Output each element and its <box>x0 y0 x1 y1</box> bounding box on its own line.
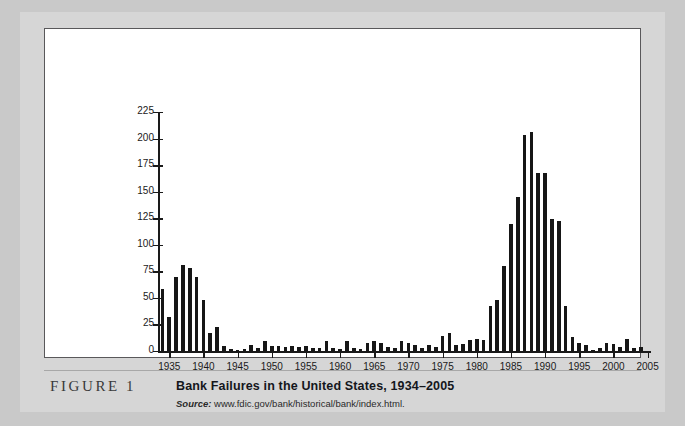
chart-axes: 0255075100125150175200225 19351940194519… <box>131 89 651 374</box>
bar <box>311 348 315 351</box>
bar <box>530 132 534 351</box>
bar <box>208 333 212 351</box>
bar <box>277 346 281 351</box>
figure-card: 0255075100125150175200225 19351940194519… <box>20 12 665 412</box>
bar <box>359 349 363 351</box>
x-axis-tick-mark <box>477 352 478 358</box>
bar <box>270 346 274 351</box>
bar <box>441 336 445 351</box>
bar <box>584 345 588 351</box>
x-axis-tick-mark <box>408 352 409 358</box>
bar <box>161 289 165 351</box>
x-axis-tick-mark <box>648 352 649 358</box>
y-axis-tick: 0 <box>131 351 168 352</box>
bar <box>557 221 561 351</box>
bar <box>516 197 520 351</box>
bar <box>379 343 383 351</box>
bar <box>571 337 575 351</box>
bar <box>605 343 609 351</box>
x-axis-tick-mark <box>374 352 375 358</box>
x-axis-tick-mark <box>272 352 273 358</box>
bar <box>434 347 438 351</box>
bar <box>509 224 513 351</box>
y-axis-tick-label: 100 <box>124 238 154 249</box>
bar <box>427 345 431 351</box>
caption-divider <box>44 370 641 371</box>
bar <box>243 349 247 351</box>
bar <box>413 345 417 351</box>
bar <box>591 350 595 351</box>
bar <box>249 345 253 351</box>
bar <box>386 347 390 351</box>
bar <box>352 348 356 351</box>
x-axis-tick-mark <box>443 352 444 358</box>
x-axis-tick-mark <box>613 352 614 358</box>
y-axis-tick-mark <box>153 351 163 352</box>
bar <box>345 341 349 351</box>
bar <box>454 345 458 351</box>
bar <box>284 347 288 351</box>
bar <box>489 306 493 351</box>
bar <box>263 341 267 351</box>
bar <box>495 300 499 351</box>
bar <box>188 268 192 351</box>
bar <box>550 219 554 351</box>
y-axis-tick-label: 150 <box>124 185 154 196</box>
bar <box>632 348 636 351</box>
figure-number: FIGURE 1 <box>50 378 136 395</box>
bar <box>502 266 506 351</box>
y-axis-tick-label: 25 <box>124 317 154 328</box>
bar <box>366 343 370 351</box>
x-axis-tick-mark <box>169 352 170 358</box>
bar <box>598 348 602 351</box>
x-axis-line <box>158 351 651 353</box>
bar <box>215 327 219 351</box>
bar <box>625 339 629 351</box>
y-axis-tick-label: 75 <box>124 264 154 275</box>
chart-plot-frame: 0255075100125150175200225 19351940194519… <box>44 28 641 358</box>
y-axis-tick-label: 175 <box>124 158 154 169</box>
y-axis-tick-label: 125 <box>124 211 154 222</box>
x-axis-tick-mark <box>579 352 580 358</box>
x-axis-tick-mark <box>545 352 546 358</box>
y-axis-tick-label: 50 <box>124 291 154 302</box>
bar <box>167 317 171 351</box>
source-url[interactable]: www.fdic.gov/bank/historical/bank/index.… <box>214 398 405 409</box>
bar <box>461 344 465 351</box>
bar <box>407 343 411 351</box>
bar <box>536 173 540 351</box>
bar <box>448 333 452 351</box>
bar <box>229 349 233 351</box>
y-axis-tick-label: 225 <box>124 105 154 116</box>
bar <box>290 346 294 351</box>
bar <box>325 341 329 351</box>
figure-title: Bank Failures in the United States, 1934… <box>176 379 454 393</box>
y-axis-tick-label: 0 <box>124 344 154 355</box>
bar <box>475 339 479 351</box>
source-label: Source: <box>176 398 211 409</box>
bar <box>297 347 301 351</box>
bar <box>222 346 226 351</box>
bar <box>338 349 342 351</box>
bar <box>577 343 581 351</box>
bar <box>420 348 424 351</box>
bar <box>523 135 527 351</box>
bar <box>618 347 622 351</box>
y-axis-tick-label: 200 <box>124 132 154 143</box>
bar <box>543 173 547 351</box>
bar <box>236 350 240 351</box>
bar <box>372 341 376 351</box>
bar <box>181 265 185 351</box>
bar <box>174 277 178 351</box>
bar <box>468 340 472 351</box>
bar <box>393 348 397 351</box>
bar <box>564 306 568 351</box>
x-axis-tick-mark <box>340 352 341 358</box>
bar <box>195 277 199 351</box>
bar <box>612 344 616 351</box>
x-axis-tick-mark <box>306 352 307 358</box>
bar <box>639 347 643 351</box>
bar <box>331 348 335 351</box>
x-axis-tick-mark <box>203 352 204 358</box>
x-axis-tick-mark <box>511 352 512 358</box>
